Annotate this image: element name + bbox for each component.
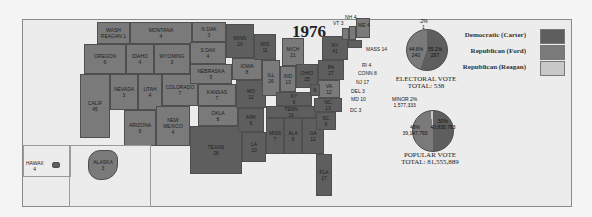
state-ut[interactable]: UTAH4: [138, 74, 162, 110]
state-la[interactable]: LA10: [242, 132, 266, 162]
legend-label-carter: Democratic (Carter): [436, 31, 526, 39]
state-or[interactable]: OREGON6: [84, 44, 126, 74]
nh-label: NH 4: [345, 14, 356, 20]
state-ok[interactable]: OKLA8: [198, 106, 238, 126]
state-nh[interactable]: [349, 26, 356, 40]
vt-label: VT 3: [333, 20, 343, 26]
state-ks[interactable]: KANSAS7: [198, 84, 236, 106]
popular-ford-label: 48%39,147,793: [400, 124, 430, 136]
dc-callout: DC 3: [350, 107, 361, 113]
popular-minor-label: MINOR 2%1,577,333: [392, 96, 417, 108]
conn-callout: CONN 8: [358, 70, 377, 76]
legend-label-reagan: Republican (Reagan): [436, 63, 526, 71]
state-hi[interactable]: [52, 162, 60, 168]
legend-swatch-ford: [540, 45, 565, 60]
state-mt[interactable]: MONTANA4: [130, 22, 192, 44]
legend-swatch-reagan: [540, 61, 565, 76]
state-il[interactable]: ILL26: [262, 60, 280, 96]
state-az[interactable]: ARIZONA6: [124, 110, 156, 146]
popular-caption: POPULAR VOTETOTAL: 81,555,889: [395, 152, 465, 166]
state-nm[interactable]: NEW MEXICO4: [156, 106, 190, 146]
state-ne[interactable]: NEBRASKA5: [190, 64, 232, 84]
state-ia[interactable]: IOWA8: [232, 58, 262, 80]
state-sd[interactable]: S DAK4: [190, 42, 226, 64]
state-id[interactable]: IDAHO4: [126, 44, 154, 74]
state-ak[interactable]: ALASKA3: [88, 150, 118, 180]
mass-callout: MASS 14: [366, 46, 387, 52]
state-ar[interactable]: ARK6: [238, 108, 264, 132]
md-callout: MD 10: [351, 96, 366, 102]
state-ca[interactable]: CALIF45: [80, 74, 110, 138]
popular-carter-label: 50%40,830,763: [428, 118, 458, 130]
state-in[interactable]: IND13: [280, 66, 296, 92]
state-vt[interactable]: [342, 28, 349, 40]
state-sc[interactable]: SC8: [316, 112, 336, 130]
state-ky[interactable]: KY9: [276, 92, 312, 106]
state-wy[interactable]: WYOMING3: [154, 44, 190, 74]
state-tn[interactable]: TENN10: [266, 106, 316, 118]
state-fl[interactable]: FLA17: [316, 154, 332, 196]
state-pa[interactable]: PA27: [318, 60, 344, 80]
state-al[interactable]: ALA9: [284, 118, 302, 154]
hawaii-label: HAWAII4: [26, 160, 43, 172]
state-nd[interactable]: N DAK3: [192, 22, 226, 42]
state-va[interactable]: VA12: [318, 80, 340, 98]
state-ms[interactable]: MISS7: [266, 118, 284, 154]
state-tx[interactable]: TEXAS26: [190, 126, 242, 174]
nj-callout: NJ 17: [356, 79, 369, 85]
state-ma[interactable]: [348, 40, 362, 48]
del-callout: DEL 3: [351, 88, 365, 94]
ri-callout: RI 4: [362, 62, 371, 68]
state-wa[interactable]: WASH REAGAN 1: [97, 22, 130, 44]
state-mn[interactable]: MINN10: [226, 24, 254, 58]
state-wv[interactable]: 6: [310, 84, 320, 96]
state-me[interactable]: [356, 18, 370, 38]
state-nv[interactable]: NEVADA3: [110, 74, 138, 110]
state-wi[interactable]: WIS11: [254, 34, 276, 60]
electoral-ford-label: 44.6%240: [407, 46, 425, 58]
state-mi[interactable]: MICH21: [282, 38, 304, 66]
state-nc[interactable]: NC13: [314, 98, 342, 112]
electoral-caption: ELECTORAL VOTETOTAL: 538: [392, 76, 460, 90]
me-label: ME 4: [358, 22, 370, 28]
legend-label-ford: Republican (Ford): [436, 47, 526, 55]
legend-swatch-carter: [540, 29, 565, 44]
